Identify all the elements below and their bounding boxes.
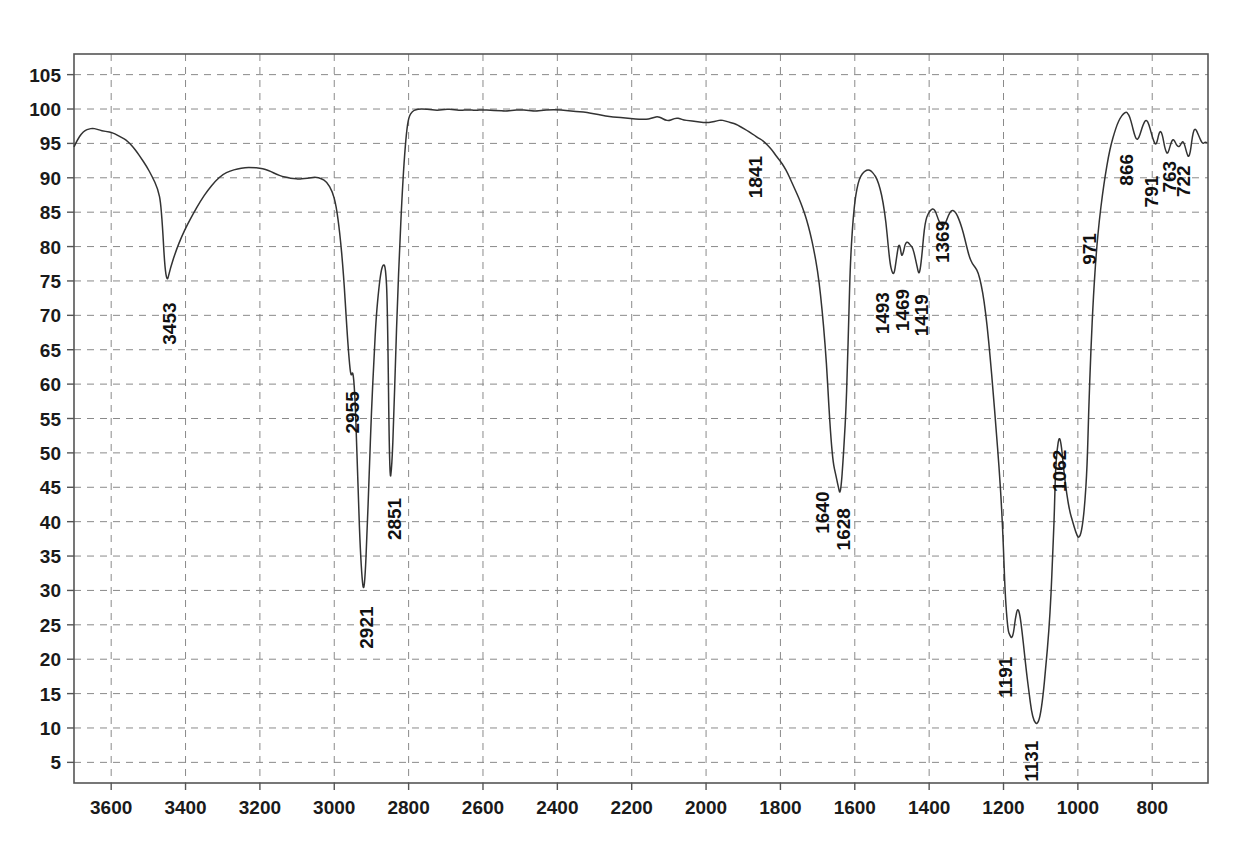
y-axis-tick-label: 55: [40, 409, 62, 430]
peak-label-1419: 1419: [911, 294, 932, 336]
peak-label-1062: 1062: [1049, 450, 1070, 492]
peak-label-1640: 1640: [812, 492, 833, 534]
peak-label-3453: 3453: [159, 302, 180, 344]
x-axis-tick-label: 800: [1136, 797, 1168, 818]
ir-spectrum-chart: 5101520253035404550556065707580859095100…: [0, 0, 1248, 843]
y-axis-tick-label: 75: [40, 271, 62, 292]
y-axis-tick-label: 15: [40, 684, 62, 705]
x-axis-tick-label: 3600: [90, 797, 132, 818]
x-axis-tick-label: 2600: [462, 797, 504, 818]
x-axis-tick-label: 3400: [164, 797, 206, 818]
y-axis-tick-label: 80: [40, 237, 61, 258]
peak-label-1191: 1191: [995, 656, 1016, 698]
y-axis-tick-label: 60: [40, 374, 61, 395]
peak-label-1369: 1369: [932, 221, 953, 263]
y-axis-tick-label: 20: [40, 649, 61, 670]
y-axis-tick-label: 35: [40, 546, 62, 567]
ir-spectrum-figure: 5101520253035404550556065707580859095100…: [0, 0, 1248, 843]
y-axis-tick-label: 25: [40, 615, 62, 636]
x-axis-tick-label: 1600: [834, 797, 876, 818]
peak-label-2921: 2921: [356, 606, 377, 649]
y-axis-tick-label: 70: [40, 305, 61, 326]
y-axis-tick-label: 40: [40, 512, 61, 533]
y-axis-tick-label: 95: [40, 133, 62, 154]
y-axis-tick-label: 5: [50, 752, 61, 773]
y-axis-tick-label: 45: [40, 477, 62, 498]
y-axis-tick-label: 85: [40, 202, 62, 223]
y-axis-tick-label: 105: [29, 65, 61, 86]
x-axis-tick-label: 1000: [1057, 797, 1099, 818]
x-axis-tick-label: 1200: [982, 797, 1024, 818]
peak-label-1628: 1628: [833, 508, 854, 550]
x-axis-tick-labels: 3600340032003000280026002400220020001800…: [90, 797, 1168, 818]
peak-label-866: 866: [1116, 154, 1137, 186]
peak-label-2955: 2955: [342, 391, 363, 434]
x-axis-tick-label: 2400: [536, 797, 578, 818]
y-axis-tick-label: 90: [40, 168, 61, 189]
y-axis-tick-label: 10: [40, 718, 61, 739]
x-axis-tick-label: 2200: [611, 797, 653, 818]
x-axis-tick-label: 1800: [759, 797, 801, 818]
x-axis-tick-label: 3200: [239, 797, 281, 818]
peak-label-722: 722: [1173, 165, 1194, 197]
y-axis-tick-label: 100: [29, 99, 61, 120]
peak-label-1493: 1493: [872, 292, 893, 334]
peak-label-1131: 1131: [1021, 740, 1042, 782]
peak-label-971: 971: [1079, 233, 1100, 265]
x-axis-tick-label: 2000: [685, 797, 727, 818]
x-axis-tick-label: 2800: [387, 797, 429, 818]
y-axis-tick-label: 30: [40, 580, 61, 601]
x-axis-tick-label: 3000: [313, 797, 355, 818]
y-axis-tick-labels: 5101520253035404550556065707580859095100…: [29, 65, 61, 774]
y-axis-tick-label: 50: [40, 443, 61, 464]
y-axis-tick-label: 65: [40, 340, 62, 361]
peak-label-1841: 1841: [745, 156, 766, 199]
x-axis-tick-label: 1400: [908, 797, 950, 818]
peak-label-2851: 2851: [384, 497, 405, 540]
